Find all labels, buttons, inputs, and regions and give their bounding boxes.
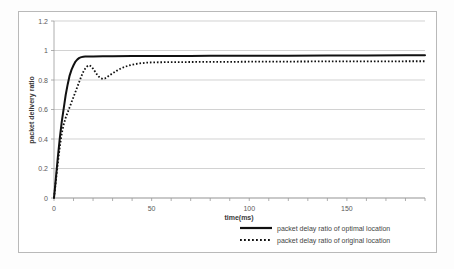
x-tick-label: 150	[341, 205, 353, 212]
legend-label-0: packet delay ratio of optimal location	[277, 225, 390, 233]
series-line-0	[54, 55, 425, 198]
x-axis-title: time(ms)	[224, 214, 253, 222]
y-tick-label: 0.6	[38, 106, 48, 113]
y-tick-label: 0	[44, 195, 48, 202]
chart-legend: packet delay ratio of optimal locationpa…	[240, 225, 390, 245]
data-series-group	[54, 55, 425, 198]
y-tick-label: 0.4	[38, 136, 48, 143]
legend-label-1: packet delay ratio of original location	[277, 237, 390, 245]
gridlines-group	[54, 21, 425, 198]
y-tick-label: 1	[44, 47, 48, 54]
y-tick-label: 1.2	[38, 18, 48, 25]
y-axis-title: packet delivery ratio	[28, 76, 36, 144]
x-tick-label: 0	[52, 205, 56, 212]
y-tick-label: 0.8	[38, 77, 48, 84]
y-tick-labels-group: 00.20.40.60.811.2	[38, 18, 48, 202]
chart-canvas: 00.20.40.60.811.2 050100150 time(ms) pac…	[0, 0, 454, 269]
series-line-1	[54, 61, 425, 198]
tickmarks-group	[51, 21, 425, 201]
x-tick-labels-group: 050100150	[52, 205, 353, 212]
x-tick-label: 50	[148, 205, 156, 212]
chart-figure: 00.20.40.60.811.2 050100150 time(ms) pac…	[0, 0, 454, 269]
x-tick-label: 100	[243, 205, 255, 212]
y-tick-label: 0.2	[38, 165, 48, 172]
